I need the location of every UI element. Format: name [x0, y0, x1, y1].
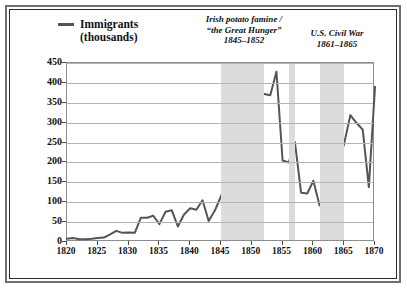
x-tick-mark	[66, 241, 67, 245]
gridline	[67, 103, 373, 104]
y-tick-mark	[62, 142, 66, 143]
x-tick-label: 1870	[354, 246, 394, 256]
y-tick-mark	[62, 82, 66, 83]
y-tick-mark	[62, 62, 66, 63]
annotation-line: 1861–1865	[290, 39, 384, 50]
x-tick-mark	[128, 241, 129, 245]
y-tick-mark	[62, 122, 66, 123]
shaded-band	[320, 63, 345, 240]
x-tick-mark	[374, 241, 375, 245]
chart-figure: Immigrants (thousands) Irish potato fami…	[0, 0, 407, 289]
x-tick-mark	[251, 241, 252, 245]
gridline	[67, 63, 373, 64]
gridline	[67, 83, 373, 84]
gridline	[67, 202, 373, 203]
x-tick-mark	[97, 241, 98, 245]
gridline	[67, 143, 373, 144]
y-tick-label: 150	[22, 176, 62, 186]
x-tick-mark	[312, 241, 313, 245]
y-tick-label: 350	[22, 97, 62, 107]
legend-line-swatch-icon	[58, 23, 74, 26]
shaded-band	[289, 63, 295, 240]
legend-sublabel: (thousands)	[80, 31, 188, 44]
annotation-civil-war: U.S. Civil War 1861–1865	[290, 28, 384, 49]
y-tick-mark	[62, 201, 66, 202]
y-tick-mark	[62, 221, 66, 222]
shaded-band	[221, 63, 264, 240]
gridline	[67, 162, 373, 163]
y-tick-label: 100	[22, 196, 62, 206]
annotation-line: U.S. Civil War	[290, 28, 384, 39]
y-tick-mark	[62, 102, 66, 103]
x-tick-mark	[189, 241, 190, 245]
chart-legend: Immigrants (thousands)	[58, 18, 188, 44]
plot-area	[66, 62, 374, 241]
x-tick-mark	[220, 241, 221, 245]
y-tick-label: 50	[22, 216, 62, 226]
legend-label: Immigrants	[80, 18, 138, 31]
y-tick-mark	[62, 161, 66, 162]
x-tick-mark	[282, 241, 283, 245]
legend-entry-immigrants: Immigrants	[58, 18, 188, 31]
x-tick-mark	[343, 241, 344, 245]
annotation-line: Irish potato famine /	[178, 14, 310, 25]
y-tick-label: 0	[22, 236, 62, 246]
y-tick-label: 200	[22, 156, 62, 166]
x-tick-mark	[158, 241, 159, 245]
y-axis-ticks: 050100150200250300350400450	[18, 62, 62, 241]
gridline	[67, 123, 373, 124]
gridline	[67, 222, 373, 223]
y-tick-mark	[62, 181, 66, 182]
y-tick-label: 400	[22, 77, 62, 87]
y-tick-label: 450	[22, 57, 62, 67]
gridline	[67, 182, 373, 183]
y-tick-label: 300	[22, 117, 62, 127]
y-tick-label: 250	[22, 137, 62, 147]
